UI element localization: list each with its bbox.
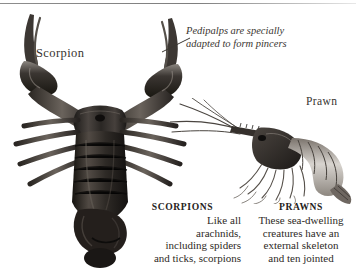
prawn-illustration bbox=[170, 98, 356, 204]
prawns-line-3: external skeleton bbox=[246, 239, 356, 252]
annotation-line-2: adapted to form pincers bbox=[186, 37, 356, 50]
scorpion-abdomen bbox=[72, 131, 128, 222]
prawns-heading: PRAWNS bbox=[246, 201, 356, 214]
prawn-legs bbox=[240, 164, 305, 200]
top-divider-rule bbox=[0, 3, 356, 4]
prawns-text-column: PRAWNS These sea-dwelling creatures have… bbox=[246, 201, 356, 264]
scorpions-line-2: arachnids, bbox=[128, 227, 241, 240]
prawn-antennae bbox=[170, 98, 240, 134]
prawns-line-4: and ten jointed bbox=[246, 252, 356, 265]
prawns-line-1: These sea-dwelling bbox=[246, 214, 356, 227]
scorpion-tail bbox=[74, 209, 127, 268]
annotation-line-1: Pedipalps are specially bbox=[186, 24, 356, 37]
scorpions-line-3: including spiders bbox=[128, 239, 241, 252]
scorpion-left-legs bbox=[16, 120, 82, 184]
prawn-eye bbox=[258, 135, 266, 141]
scorpions-heading: SCORPIONS bbox=[128, 201, 241, 214]
scorpions-line-1: Like all bbox=[128, 214, 241, 227]
document-page: Scorpion Prawn Pedipalps are specially a… bbox=[0, 0, 356, 268]
scorpions-line-4: and ticks, scorpions bbox=[128, 252, 241, 265]
scorpions-text-column: SCORPIONS Like all arachnids, including … bbox=[128, 201, 241, 264]
pedipalps-annotation: Pedipalps are specially adapted to form … bbox=[186, 24, 356, 50]
prawns-line-2: creatures have an bbox=[246, 227, 356, 240]
prawn-label: Prawn bbox=[306, 95, 337, 107]
scorpion-label: Scorpion bbox=[36, 46, 84, 61]
